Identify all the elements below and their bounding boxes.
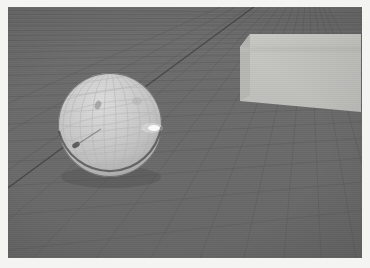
sphere-vertex-marker-top [132, 97, 142, 105]
scene-objects[interactable] [8, 7, 362, 258]
cube-front-face [240, 47, 361, 112]
cube-top-face [240, 34, 361, 47]
sphere-specular-glow [141, 123, 163, 133]
cube[interactable] [240, 34, 361, 112]
sphere[interactable] [51, 71, 168, 180]
screenshot-root: 3D Viewport Render UV Sphere Cube ground… [0, 0, 370, 268]
cube-left-face [240, 34, 250, 101]
cube-edge-shade [240, 47, 361, 52]
3d-viewport[interactable] [8, 7, 362, 258]
